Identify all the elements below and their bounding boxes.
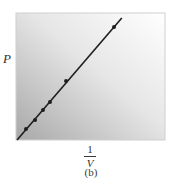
y-axis-label: P — [3, 52, 11, 66]
data-point — [64, 79, 68, 83]
plot-frame — [16, 13, 165, 140]
data-point — [24, 127, 28, 131]
data-point — [112, 25, 116, 29]
data-point — [48, 100, 52, 104]
data-point — [33, 118, 37, 122]
data-point — [41, 108, 45, 112]
figure-caption: (b) — [79, 166, 103, 178]
x-axis-label-numerator: 1 — [82, 144, 98, 155]
chart: P 1 V (b) — [0, 0, 174, 191]
